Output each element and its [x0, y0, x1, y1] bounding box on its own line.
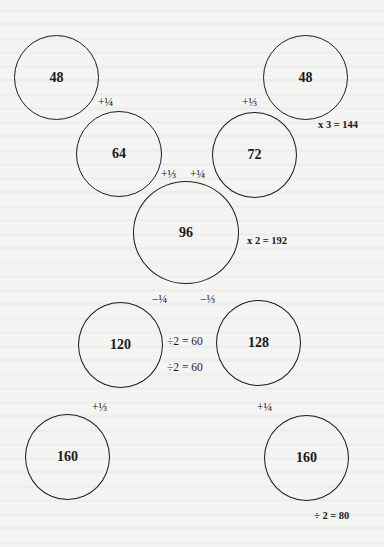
circle-64: 64 — [76, 111, 162, 197]
circle-160-left: 160 — [25, 414, 110, 500]
label-plus-third-bottom: +⅓ — [92, 402, 107, 414]
circle-value: 48 — [50, 70, 64, 86]
circle-value: 48 — [299, 70, 313, 86]
circle-value: 160 — [57, 449, 78, 465]
label-plus-quarter-top: +¼ — [98, 97, 113, 109]
label-div2-60-b: ÷2 = 60 — [167, 362, 203, 374]
label-plus-quarter-bottom: +¼ — [257, 402, 272, 414]
circle-value: 160 — [296, 450, 317, 466]
label-plus-third-top: +⅓ — [242, 97, 257, 109]
label-times2-192: x 2 = 192 — [247, 236, 287, 247]
circle-value: 64 — [112, 146, 126, 162]
label-minus-quarter: −¼ — [152, 294, 167, 306]
circle-72: 72 — [212, 112, 297, 198]
circle-48-left: 48 — [14, 35, 99, 120]
label-div2-60-a: ÷2 = 60 — [167, 336, 203, 348]
label-minus-third: −⅓ — [200, 294, 215, 306]
label-plus-quarter-mid: +¼ — [190, 169, 205, 181]
circle-value: 72 — [248, 147, 262, 163]
circle-48-right: 48 — [263, 35, 348, 120]
circle-value: 128 — [248, 335, 269, 351]
circle-value: 120 — [110, 337, 131, 353]
circle-value: 96 — [179, 225, 193, 241]
label-div2-80: ÷ 2 = 80 — [314, 511, 349, 522]
circle-128: 128 — [216, 300, 301, 386]
label-plus-third-mid: +⅓ — [161, 169, 176, 181]
label-times3-144: x 3 = 144 — [318, 120, 358, 131]
circle-160-right: 160 — [264, 415, 349, 501]
circle-120: 120 — [78, 302, 163, 388]
circle-96: 96 — [133, 181, 239, 284]
